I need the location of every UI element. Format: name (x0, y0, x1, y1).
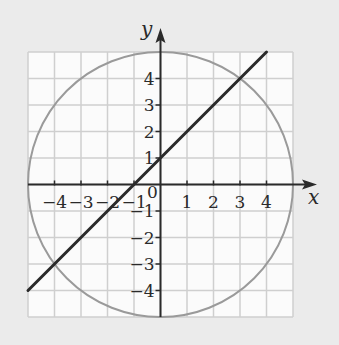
origin-label: 0 (147, 182, 158, 202)
coordinate-plane-figure: x y 0 −4−3−2−112344321−1−2−3−4 (0, 0, 339, 345)
y-tick-label: −2 (129, 228, 154, 248)
y-axis-label: y (140, 17, 153, 41)
graph-canvas: x y 0 −4−3−2−112344321−1−2−3−4 (0, 0, 339, 345)
x-tick-label: −2 (95, 192, 120, 212)
x-tick-label: −3 (68, 192, 93, 212)
x-tick-label: −4 (42, 192, 67, 212)
x-tick-label: 3 (235, 192, 246, 212)
y-tick-label: 1 (144, 148, 155, 168)
y-tick-label: 4 (144, 69, 155, 89)
y-tick-label: −4 (129, 281, 154, 301)
y-tick-label: −1 (129, 201, 154, 221)
y-tick-label: −3 (129, 254, 154, 274)
x-tick-label: 2 (208, 192, 219, 212)
y-tick-label: 2 (144, 122, 155, 142)
x-axis-label: x (308, 185, 319, 209)
x-tick-label: 4 (261, 192, 272, 212)
x-tick-label: 1 (182, 192, 193, 212)
y-tick-label: 3 (144, 95, 155, 115)
